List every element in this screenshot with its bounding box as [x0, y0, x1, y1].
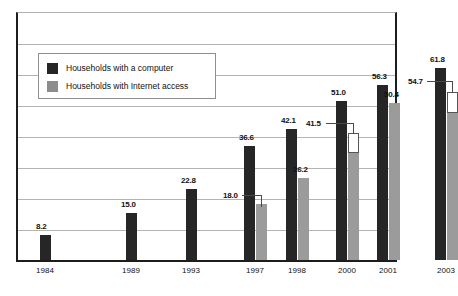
x-tick-1993: 1993 [182, 266, 200, 275]
x-tick-2003: 2003 [437, 266, 455, 275]
bar-2003-computer [435, 68, 446, 260]
bar-1984-computer [40, 235, 51, 260]
bar-2003-internet [447, 109, 458, 260]
value-label-2000-computer: 51.0 [331, 88, 346, 97]
bar-1998-internet [298, 178, 309, 260]
value-label-1997-internet: 18.0 [223, 191, 238, 200]
plot-area: 8.2 15.0 22.8 36.6 18.0 42.1 26.2 51.0 [16, 12, 397, 262]
value-label-2000-internet: 41.5 [306, 119, 321, 128]
bar-2000-internet [348, 151, 359, 260]
value-label-1984-computer: 8.2 [36, 222, 47, 231]
leader-line-1997-internet-v [261, 195, 262, 207]
value-label-1993-computer: 22.8 [181, 176, 196, 185]
bar-1997-computer [244, 146, 255, 260]
leader-line-2003-internet-h [427, 81, 453, 82]
legend-swatch-computer-icon [47, 63, 58, 74]
x-tick-2000: 2000 [338, 266, 356, 275]
value-label-2003-internet: 54.7 [408, 77, 423, 86]
bar-2001-internet [389, 103, 400, 260]
leader-line-2003-internet-v [452, 81, 453, 93]
value-label-2003-computer: 61.8 [430, 55, 445, 64]
value-label-2001-internet: 50.4 [384, 90, 399, 99]
x-tick-1989: 1989 [122, 266, 140, 275]
bar-2000-computer [336, 101, 347, 260]
x-tick-1997: 1997 [246, 266, 264, 275]
legend-item-internet: Households with Internet access [47, 78, 207, 94]
bar-1989-computer [126, 213, 137, 260]
bar-1998-computer [286, 129, 297, 260]
legend-label-internet: Households with Internet access [66, 81, 188, 91]
x-tick-1998: 1998 [288, 266, 306, 275]
value-label-1997-computer: 36.6 [239, 133, 254, 142]
bar-outline-2003-internet [447, 92, 458, 113]
legend-item-computer: Households with a computer [47, 60, 207, 76]
bars-layer: 8.2 15.0 22.8 36.6 18.0 42.1 26.2 51.0 [18, 13, 395, 260]
value-label-1998-computer: 42.1 [281, 116, 296, 125]
leader-line-2000-internet-v [353, 123, 354, 134]
value-label-1989-computer: 15.0 [121, 200, 136, 209]
value-label-2001-computer: 56.3 [372, 72, 387, 81]
x-axis: 1984 1989 1993 1997 1998 2000 2001 2003 [16, 266, 397, 282]
legend: Households with a computer Households wi… [38, 53, 216, 99]
leader-line-2000-internet-h [326, 123, 354, 124]
value-label-1998-internet: 26.2 [293, 165, 308, 174]
legend-label-computer: Households with a computer [66, 63, 173, 73]
bar-2001-computer [377, 85, 388, 260]
x-tick-2001: 2001 [379, 266, 397, 275]
leader-line-1997-internet-h [242, 195, 262, 196]
bar-outline-2000-internet [348, 133, 359, 153]
legend-swatch-internet-icon [47, 81, 58, 92]
bar-1997-internet [256, 204, 267, 260]
x-tick-1984: 1984 [36, 266, 54, 275]
bar-1993-computer [186, 189, 197, 260]
